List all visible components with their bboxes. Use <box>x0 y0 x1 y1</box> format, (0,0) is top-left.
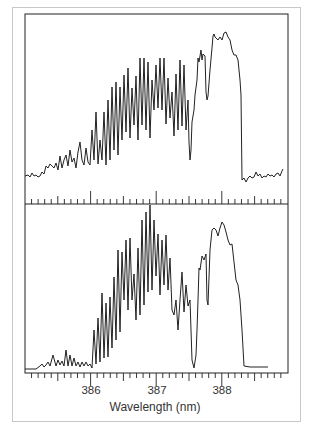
spectra-figure <box>0 0 310 434</box>
bottom-spectrum-line <box>25 205 268 369</box>
top-spectrum-line <box>25 32 283 182</box>
x-tick-label-386: 386 <box>81 384 100 396</box>
x-axis-label: Wavelength (nm) <box>0 400 310 414</box>
x-tick-label-387: 387 <box>147 384 166 396</box>
x-tick-label-388: 388 <box>212 384 231 396</box>
middle-axis-ticks <box>32 191 281 204</box>
